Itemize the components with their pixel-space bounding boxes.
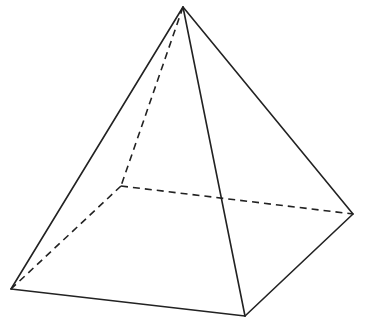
hidden-edge-back_left_hidden-back_right [121,186,353,214]
visible-edge-apex-front_right [183,7,245,316]
square-pyramid-diagram [0,0,373,330]
visible-edge-apex-front_left [11,7,183,289]
visible-edge-apex-back_right [183,7,353,214]
visible-edge-front_right-back_right [245,214,353,316]
hidden-edge-apex-back_left_hidden [121,7,183,186]
visible-edge-front_left-front_right [11,289,245,316]
visible-edges [11,7,353,316]
hidden-edge-back_left_hidden-front_left [11,186,121,289]
hidden-edges [11,7,353,289]
